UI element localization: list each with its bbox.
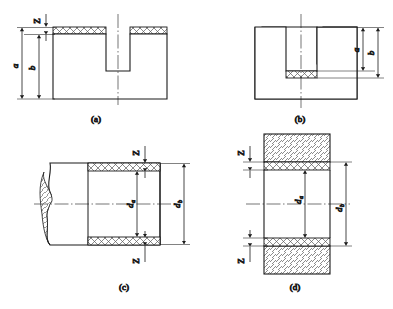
panel-b-coating	[286, 71, 317, 78]
panel-a-label-b: b	[27, 65, 37, 70]
panel-d-label-z-bottom: Z	[236, 258, 246, 264]
panel-b-label-a: a	[351, 47, 361, 52]
panel-d-label-z-top: Z	[236, 150, 246, 156]
panel-c-caption: (c)	[119, 282, 129, 292]
panel-a-coating	[53, 27, 167, 34]
panel-c-label-z-bottom: Z	[131, 258, 141, 264]
panel-c-coating-top	[88, 163, 160, 171]
panel-b-label-b: b	[366, 50, 376, 55]
panel-a-label-z: Z	[32, 18, 42, 24]
panel-d-label-db: db	[334, 204, 345, 212]
panel-d-label-da: da	[293, 196, 304, 204]
panel-b: a b (b)	[255, 14, 384, 124]
panel-c-label-db: db	[172, 200, 183, 208]
panel-c-label-z-top: Z	[131, 150, 141, 156]
panel-a-body	[53, 34, 167, 99]
panel-a: Z a b (a)	[10, 14, 167, 124]
panel-d: Z Z da db (d)	[236, 134, 352, 292]
panel-a-label-a: a	[10, 63, 20, 68]
panel-c: Z Z da db (c)	[34, 146, 190, 292]
panel-b-caption: (b)	[295, 114, 306, 124]
panel-d-body-bottom	[264, 246, 330, 274]
panel-d-coating-bottom	[264, 238, 330, 246]
engineering-figure: Z a b (a) a	[0, 0, 393, 309]
panel-a-caption: (a)	[91, 114, 101, 124]
panel-d-caption: (d)	[290, 282, 301, 292]
panel-d-body-top	[264, 134, 330, 162]
panel-c-coating-bottom	[88, 237, 160, 245]
panel-d-coating-top	[264, 162, 330, 170]
